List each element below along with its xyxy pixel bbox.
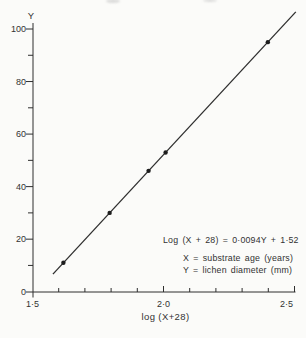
data-point bbox=[266, 40, 270, 44]
data-point bbox=[61, 261, 65, 265]
y-axis-tick-label: 40 bbox=[16, 182, 26, 192]
y-axis-tick-label: 20 bbox=[16, 234, 26, 244]
y-axis-tick-label: 100 bbox=[11, 24, 26, 34]
y-axis-tick-label: 60 bbox=[16, 129, 26, 139]
data-point bbox=[107, 211, 111, 215]
x-axis-tick-label: 2·0 bbox=[157, 299, 170, 309]
x-axis-tick-label: 1·5 bbox=[26, 299, 39, 309]
lichen-growth-regression-figure: 1·52·02·5020406080100 Y log (X+28) Log (… bbox=[0, 0, 306, 338]
regression-equation-label: Log (X + 28) = 0·0094Y + 1·52 bbox=[163, 235, 299, 245]
data-point bbox=[163, 150, 167, 154]
x-axis-tick-label: 2·5 bbox=[280, 299, 293, 309]
x-variable-definition: X = substrate age (years) bbox=[183, 253, 293, 263]
y-axis-tick-label: 80 bbox=[16, 77, 26, 87]
x-axis-title: log (X+28) bbox=[115, 311, 216, 322]
y-axis-tick-label: 0 bbox=[21, 287, 26, 297]
data-point bbox=[146, 169, 150, 173]
y-axis-title: Y bbox=[23, 10, 39, 21]
y-variable-definition: Y = lichen diameter (mm) bbox=[183, 265, 292, 275]
plot-area: 1·52·02·5020406080100 bbox=[0, 0, 306, 338]
